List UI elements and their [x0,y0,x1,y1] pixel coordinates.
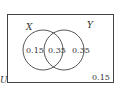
region-outside-value: 0.15 [92,73,110,82]
set-y-label: Y [87,20,94,30]
venn-diagram: X Y U 0.15 0.35 0.35 0.15 [0,0,120,90]
region-y-only-value: 0.35 [72,46,90,55]
universe-label: U [0,75,8,85]
region-x-only-value: 0.15 [26,46,44,55]
set-x-label: X [25,22,33,32]
region-intersection-value: 0.35 [48,46,66,55]
